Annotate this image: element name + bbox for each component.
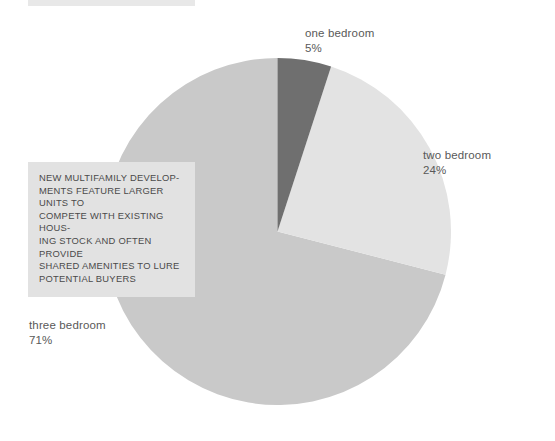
pie-label-one-bedroom: one bedroom 5% [305,26,374,56]
pie-label-three-bedroom-name: three bedroom [29,319,106,331]
chart-canvas: one bedroom 5% two bedroom 24% three bed… [0,0,555,441]
pie-label-one-bedroom-name: one bedroom [305,27,374,39]
pie-label-two-bedroom-value: 24% [423,163,491,178]
pie-label-three-bedroom: three bedroom 71% [29,318,106,348]
pie-label-two-bedroom-name: two bedroom [423,149,491,161]
pie-label-one-bedroom-value: 5% [305,41,374,56]
decorative-rule [28,0,195,6]
callout-box: New multifamily develop- ments feature l… [28,162,195,297]
pie-label-two-bedroom: two bedroom 24% [423,148,491,178]
pie-label-three-bedroom-value: 71% [29,333,106,348]
callout-text: New multifamily develop- ments feature l… [39,172,184,285]
